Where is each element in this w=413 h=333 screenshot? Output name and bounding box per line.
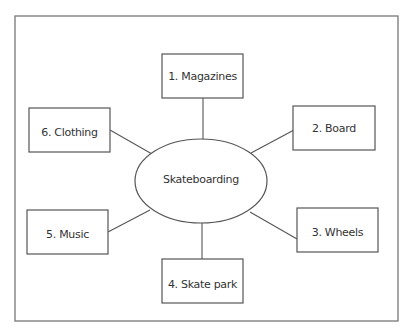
node-magazines: 1. Magazines	[162, 54, 243, 98]
center-node: Skateboarding	[135, 139, 267, 223]
connector-music	[108, 210, 150, 232]
node-clothing: 6. Clothing	[29, 108, 110, 152]
connector-board	[251, 130, 294, 153]
node-board: 2. Board	[293, 106, 375, 150]
connector-clothing	[110, 130, 152, 154]
node-music: 5. Music	[27, 210, 108, 254]
mind-map-diagram: Skateboarding 1. Magazines 2. Board 3. W…	[0, 0, 413, 333]
connector-wheels	[250, 212, 297, 239]
node-label: 5. Music	[46, 228, 89, 241]
node-label: 2. Board	[312, 122, 356, 135]
center-label: Skateboarding	[163, 173, 239, 186]
node-label: 6. Clothing	[41, 126, 97, 139]
node-label: 1. Magazines	[168, 70, 237, 83]
node-skate-park: 4. Skate park	[162, 259, 243, 303]
node-label: 4. Skate park	[168, 278, 238, 291]
node-wheels: 3. Wheels	[297, 208, 378, 252]
node-label: 3. Wheels	[312, 226, 364, 239]
